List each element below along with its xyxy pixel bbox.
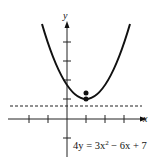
equation-label: 4y = 3x2 − 6x + 7: [73, 139, 147, 151]
equation-lhs: 4y = 3x: [73, 140, 105, 151]
y-axis-label: y: [62, 10, 68, 21]
x-axis-label: x: [142, 113, 148, 124]
y-axis-arrow-icon: [65, 21, 70, 28]
equation-rhs: − 6x + 7: [109, 140, 147, 151]
parabola-curve: [42, 24, 130, 99]
focus-point: [84, 91, 89, 96]
parabola-graph: y x: [0, 0, 152, 161]
vertex-point: [84, 97, 89, 102]
